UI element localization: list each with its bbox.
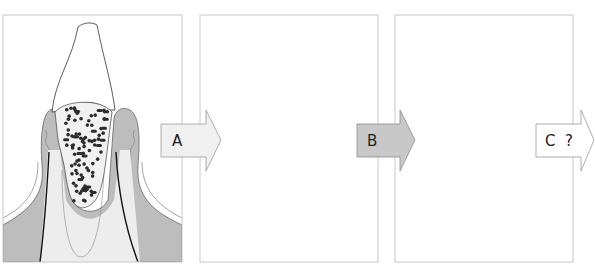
bacterium-coccus — [65, 143, 69, 147]
bacterium-coccus — [74, 169, 78, 173]
bacterium-coccus — [481, 194, 485, 198]
gum-line-right — [339, 162, 379, 218]
bacterium-coccus — [73, 106, 77, 110]
epithelium-right — [325, 130, 332, 165]
tooth-crown — [249, 23, 312, 112]
socket-line-left — [432, 152, 441, 262]
bacterium-coccus — [472, 125, 476, 129]
bacterium-coccus — [93, 143, 97, 147]
bacterium-coccus — [486, 143, 490, 147]
bacterium-coccus — [75, 189, 79, 193]
bacterium-coccus — [79, 137, 83, 141]
bacterium-rod — [63, 138, 69, 141]
arrow-c-label: C ? — [545, 132, 573, 150]
alveolar-space — [237, 150, 337, 262]
bacterium-coccus — [87, 169, 91, 173]
bacterium-coccus — [466, 200, 470, 204]
bacterium-coccus — [267, 112, 271, 116]
bacterium-coccus — [75, 111, 79, 115]
bacterium-coccus — [66, 128, 70, 132]
bacterium-coccus — [457, 123, 461, 127]
bacterium-coccus — [72, 199, 76, 203]
bacterium-coccus — [72, 143, 76, 147]
alveolar-space — [432, 150, 532, 262]
bacterium-coccus — [289, 124, 293, 128]
bacterium-coccus — [90, 193, 94, 197]
bacterium-coccus — [486, 122, 490, 126]
socket-line-right — [313, 152, 335, 262]
bacterium-coccus — [465, 199, 469, 203]
arrow-b-label: B — [367, 132, 377, 150]
bacterium-coccus — [494, 122, 498, 126]
bacterium-coccus — [65, 108, 69, 112]
bacterium-coccus — [97, 134, 101, 138]
gum-line-right — [534, 162, 574, 218]
bacterium-coccus — [472, 200, 476, 204]
bacterium-coccus — [70, 172, 74, 176]
epithelium-left — [242, 130, 249, 165]
bacterium-coccus — [272, 179, 276, 183]
bacterium-coccus — [459, 161, 463, 165]
bacterium-coccus — [276, 149, 280, 153]
bacterium-coccus — [490, 126, 494, 130]
bacterium-coccus — [473, 155, 477, 159]
bacterium-coccus — [461, 159, 465, 163]
bacterium-coccus — [472, 179, 476, 183]
bacterium-coccus — [470, 111, 474, 115]
bacterium-coccus — [91, 171, 95, 175]
bacterium-coccus — [70, 134, 74, 138]
bacterium-coccus — [275, 151, 279, 155]
bacterium-coccus — [482, 115, 486, 119]
bacterium-coccus — [91, 174, 95, 178]
bacterium-rod — [277, 158, 283, 161]
panel-background — [200, 15, 378, 262]
bacterium-coccus — [466, 136, 470, 140]
bacterium-rod — [101, 127, 107, 130]
bacterium-coccus — [267, 183, 271, 187]
periodontal-pocket — [251, 103, 309, 218]
periodontal-pocket — [447, 102, 504, 208]
bacterium-coccus — [93, 113, 97, 117]
bacterium-coccus — [82, 145, 86, 149]
bacterium-coccus — [465, 117, 469, 121]
panel-2 — [200, 15, 379, 262]
bacterium-coccus — [490, 138, 494, 142]
root-outline — [454, 170, 496, 257]
bacterium-coccus — [285, 168, 289, 172]
bacterium-coccus — [64, 121, 68, 125]
bacterium-coccus — [264, 149, 268, 153]
bacterium-rod — [82, 155, 88, 158]
bacterium-coccus — [284, 124, 288, 128]
bacterium-rod — [91, 130, 97, 133]
bacterium-coccus — [77, 147, 81, 151]
bacterium-coccus — [72, 182, 76, 186]
bacterium-rod — [273, 173, 279, 176]
epithelium-left — [437, 130, 444, 165]
gum-line-left — [200, 162, 235, 218]
bacterium-coccus — [102, 117, 106, 121]
bacterium-coccus — [91, 162, 95, 166]
bacterium-coccus — [90, 123, 94, 127]
bacterium-coccus — [102, 109, 106, 113]
arrow-b: B — [357, 110, 415, 171]
bacterium-coccus — [101, 131, 105, 135]
bacterium-coccus — [73, 118, 77, 122]
bacterium-rod — [97, 109, 103, 112]
bacterium-coccus — [476, 158, 480, 162]
bacterium-coccus — [467, 190, 471, 194]
panel-border — [200, 15, 378, 262]
bacterium-coccus — [83, 199, 87, 203]
bacterium-coccus — [478, 122, 482, 126]
bacterium-rod — [469, 155, 475, 158]
bacterium-coccus — [75, 159, 79, 163]
arrow-b-shape — [357, 110, 415, 171]
socket-line-right — [508, 152, 530, 262]
bacterium-coccus — [70, 164, 74, 168]
bacterium-rod — [77, 178, 83, 181]
bacterium-coccus — [484, 117, 488, 121]
bacterium-coccus — [96, 157, 100, 161]
root-outline — [259, 170, 301, 257]
bacterium-coccus — [481, 122, 485, 126]
bacterium-coccus — [80, 189, 84, 193]
bacterium-coccus — [486, 168, 490, 172]
